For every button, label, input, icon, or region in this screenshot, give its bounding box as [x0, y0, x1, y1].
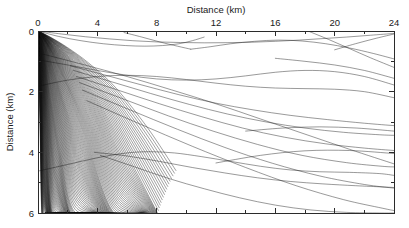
top-axis-title: Distance (km)	[187, 4, 246, 15]
left-tick-label: 2	[29, 86, 34, 97]
top-tick-label: 8	[154, 17, 159, 28]
top-tick-label: 4	[95, 17, 100, 28]
top-tick-label: 12	[211, 17, 222, 28]
left-tick-label: 0	[29, 26, 34, 37]
left-axis-title: Distance (km)	[4, 93, 15, 152]
top-tick-label: 0	[35, 17, 40, 28]
top-tick-label: 24	[389, 17, 400, 28]
top-tick-label: 20	[329, 17, 340, 28]
top-axis-tick-labels: 04812162024	[35, 17, 399, 28]
seismic-ray-figure: 04812162024 0246 Distance (km) Distance …	[0, 0, 409, 228]
left-tick-label: 6	[29, 208, 34, 219]
left-axis-tick-labels: 0246	[29, 26, 34, 219]
ray-path-plot: 04812162024 0246 Distance (km) Distance …	[0, 0, 409, 228]
left-tick-label: 4	[29, 147, 34, 158]
plot-background	[38, 31, 394, 213]
top-tick-label: 16	[270, 17, 281, 28]
